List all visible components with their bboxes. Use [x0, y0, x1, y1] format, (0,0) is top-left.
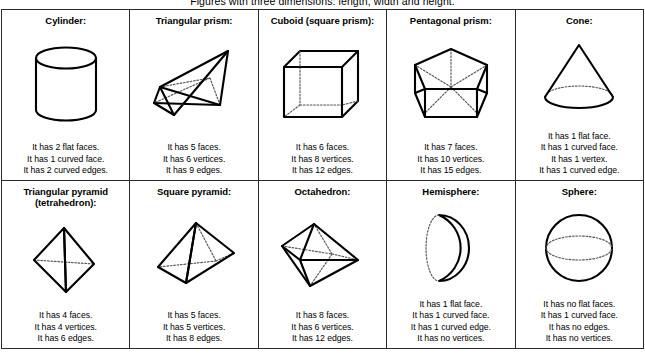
- cell-cuboid: Cuboid (square prism): It has 6: [258, 10, 386, 181]
- octahedron-shape-icon: [259, 197, 386, 310]
- fact-line: It has 15 edges.: [417, 165, 484, 176]
- page-title: Figures with three dimensions: length, w…: [0, 0, 645, 7]
- fact-line: It has 6 vertices.: [163, 154, 225, 165]
- triangular-prism-shape-icon: [130, 26, 257, 142]
- fact-line: It has 2 curved edges.: [24, 165, 108, 176]
- fact-line: It has 2 flat faces.: [24, 142, 108, 153]
- pentagonal-prism-shape-icon: [387, 26, 514, 142]
- cell-sphere: Sphere: It has no flat faces. It has 1 c…: [515, 181, 643, 349]
- shape-heading: Cylinder:: [45, 10, 86, 26]
- shape-heading: Cuboid (square prism):: [271, 10, 374, 26]
- cell-hemisphere: Hemisphere: It has 1 flat face. It has 1…: [387, 181, 515, 349]
- shape-heading: Square pyramid:: [157, 181, 231, 197]
- shape-facts: It has 4 faces. It has 4 vertices. It ha…: [33, 310, 99, 348]
- fact-line: It has 10 vertices.: [417, 154, 484, 165]
- fact-line: It has 12 edges.: [291, 333, 353, 344]
- shape-facts: It has 6 faces. It has 8 vertices. It ha…: [289, 142, 355, 180]
- shape-facts: It has 8 faces. It has 6 vertices. It ha…: [289, 310, 355, 348]
- hemisphere-shape-icon: [387, 197, 514, 299]
- shape-heading: Pentagonal prism:: [410, 10, 492, 26]
- fact-line: It has 8 vertices.: [291, 154, 353, 165]
- tetrahedron-shape-icon: [2, 208, 129, 310]
- shape-heading: Triangular pyramid (tetrahedron):: [23, 181, 108, 208]
- fact-line: It has 1 vertex.: [539, 154, 619, 165]
- fact-line: It has 12 edges.: [291, 165, 353, 176]
- shape-facts: It has 5 faces. It has 5 vertices. It ha…: [161, 310, 227, 348]
- fact-line: It has 1 curved face.: [541, 310, 618, 321]
- fact-line: It has 4 vertices.: [35, 322, 97, 333]
- shape-facts: It has 5 faces. It has 6 vertices. It ha…: [161, 142, 227, 180]
- shape-heading: Cone:: [566, 10, 593, 26]
- fact-line: It has 1 curved face.: [411, 310, 491, 321]
- fact-line: It has 1 curved edge.: [411, 322, 491, 333]
- fact-line: It has 8 faces.: [291, 310, 353, 321]
- fact-line: It has 5 faces.: [163, 142, 225, 153]
- square-pyramid-shape-icon: [130, 197, 257, 310]
- fact-line: It has 4 faces.: [35, 310, 97, 321]
- cell-square-pyramid: Square pyramid: It has 5 faces. It: [130, 181, 258, 349]
- fact-line: It has 9 edges.: [163, 165, 225, 176]
- shape-heading-line1: Triangular pyramid: [23, 186, 108, 197]
- sphere-shape-icon: [516, 197, 643, 299]
- fact-line: It has 1 flat face.: [539, 131, 619, 142]
- fact-line: It has 6 vertices.: [291, 322, 353, 333]
- fact-line: It has 1 curved edge.: [539, 165, 619, 176]
- cell-cone: Cone: It has 1 flat face. It has 1 curve…: [515, 10, 643, 181]
- shape-heading: Octahedron:: [295, 181, 351, 197]
- shapes-table: Cylinder: It has 2 flat faces. It has 1 …: [1, 9, 644, 349]
- fact-line: It has 7 faces.: [417, 142, 484, 153]
- fact-line: It has 6 faces.: [291, 142, 353, 153]
- fact-line: It has 1 curved face.: [539, 142, 619, 153]
- table-row: Cylinder: It has 2 flat faces. It has 1 …: [2, 10, 644, 181]
- shape-facts: It has 1 flat face. It has 1 curved face…: [537, 131, 621, 180]
- cylinder-shape-icon: [2, 26, 129, 142]
- cell-triangular-prism: Triangular prism: It has 5 faces. I: [130, 10, 258, 181]
- fact-line: It has no vertices.: [541, 333, 618, 344]
- fact-line: It has no vertices.: [411, 333, 491, 344]
- fact-line: It has no edges.: [541, 322, 618, 333]
- worksheet-page: Figures with three dimensions: length, w…: [0, 0, 645, 354]
- shape-facts: It has 2 flat faces. It has 1 curved fac…: [22, 142, 110, 180]
- shape-facts: It has no flat faces. It has 1 curved fa…: [539, 299, 620, 348]
- cell-cylinder: Cylinder: It has 2 flat faces. It has 1 …: [2, 10, 130, 181]
- table-row: Triangular pyramid (tetrahedron):: [2, 181, 644, 349]
- shape-heading: Sphere:: [562, 181, 597, 197]
- fact-line: It has 6 edges.: [35, 333, 97, 344]
- cone-shape-icon: [516, 26, 643, 131]
- cuboid-shape-icon: [259, 26, 386, 142]
- fact-line: It has 1 flat face.: [411, 299, 491, 310]
- shape-facts: It has 1 flat face. It has 1 curved face…: [409, 299, 493, 348]
- fact-line: It has 1 curved face.: [24, 154, 108, 165]
- fact-line: It has 5 vertices.: [163, 322, 225, 333]
- fact-line: It has 5 faces.: [163, 310, 225, 321]
- cell-octahedron: Octahedron: It has 8 faces. It has 6 ver…: [258, 181, 386, 349]
- cell-triangular-pyramid: Triangular pyramid (tetrahedron):: [2, 181, 130, 349]
- fact-line: It has 8 edges.: [163, 333, 225, 344]
- shape-heading: Triangular prism:: [156, 10, 233, 26]
- fact-line: It has no flat faces.: [541, 299, 618, 310]
- shape-facts: It has 7 faces. It has 10 vertices. It h…: [415, 142, 486, 180]
- shape-heading: Hemisphere:: [422, 181, 479, 197]
- shape-heading-line2: (tetrahedron):: [35, 197, 97, 208]
- cell-pentagonal-prism: Pentagonal prism: It has 7 faces: [387, 10, 515, 181]
